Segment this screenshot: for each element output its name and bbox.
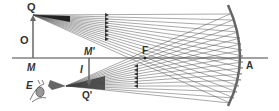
label-f: F [142,45,148,56]
mirror-diagram [0,0,279,111]
label-e: E [26,80,33,91]
label-o: O [20,35,29,46]
label-q: Q [27,2,36,13]
diverging-beam [48,80,66,90]
label-m-prime: M' [84,46,95,57]
focus-point [144,57,147,60]
label-a: A [246,60,253,71]
label-m: M [27,62,35,73]
label-i: I [80,64,83,75]
label-q-prime: Q' [82,90,92,101]
